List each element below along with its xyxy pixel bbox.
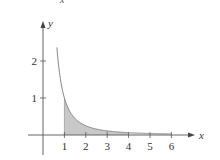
- x-tick-label: 4: [126, 140, 132, 152]
- y-tick-label: 2: [32, 55, 38, 67]
- y-tick-label: 1: [32, 92, 38, 104]
- y-ticks: 12: [32, 55, 47, 104]
- y-axis-label: y: [47, 17, 53, 29]
- y-axis-arrow-icon: [41, 21, 46, 28]
- function-area-chart: x y 123456 12: [0, 0, 220, 160]
- x-axis-label: x: [198, 129, 204, 141]
- x-tick-label: 6: [169, 140, 175, 152]
- x-axis-arrow-icon: [188, 133, 195, 138]
- x-tick-label: 2: [83, 140, 89, 152]
- x-tick-label: 5: [147, 140, 153, 152]
- x-tick-label: 1: [62, 140, 68, 152]
- x-tick-label: 3: [104, 140, 110, 152]
